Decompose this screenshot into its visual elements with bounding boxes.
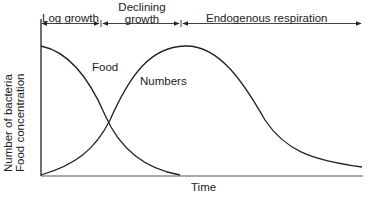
phase-label-declining-line2: growth bbox=[112, 13, 172, 25]
bacterial-growth-diagram: Log growth Declining growth Endogenous r… bbox=[0, 0, 375, 203]
y-axis-label: Number of bacteria Food concentration bbox=[2, 74, 26, 172]
curve-label-numbers: Numbers bbox=[140, 75, 187, 87]
y-axis-label-line2: Food concentration bbox=[14, 74, 26, 172]
phase-label-log-growth: Log growth bbox=[42, 12, 99, 24]
phase-label-declining-line1: Declining bbox=[112, 1, 172, 13]
x-axis-label: Time bbox=[191, 181, 216, 193]
curve-label-food: Food bbox=[92, 61, 118, 73]
diagram-canvas bbox=[0, 0, 375, 203]
numbers-curve bbox=[41, 46, 362, 175]
phase-label-endogenous-respiration: Endogenous respiration bbox=[206, 12, 327, 24]
phase-label-declining-growth: Declining growth bbox=[112, 1, 172, 25]
y-axis-label-line1: Number of bacteria bbox=[2, 74, 14, 172]
